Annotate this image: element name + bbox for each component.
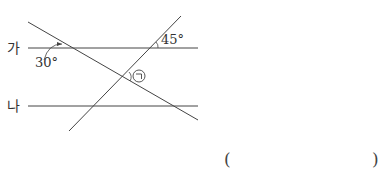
angle-arc-45 xyxy=(156,42,158,48)
unknown-angle-marker-icon xyxy=(133,70,145,82)
angle-arc-unknown xyxy=(129,72,131,81)
angle-label-45: 45° xyxy=(161,32,184,47)
angle-diagram: 가 나 30° 45° xyxy=(0,0,384,177)
line-label-na: 나 xyxy=(7,98,20,114)
answer-close-paren: ) xyxy=(372,149,379,169)
giyeok-glyph-icon xyxy=(136,74,142,79)
answer-blank[interactable] xyxy=(236,152,370,170)
line-label-ga: 가 xyxy=(7,40,20,56)
arc-arrowhead-icon xyxy=(57,42,62,46)
angle-label-30: 30° xyxy=(35,55,58,70)
answer-open-paren: ( xyxy=(224,149,231,169)
